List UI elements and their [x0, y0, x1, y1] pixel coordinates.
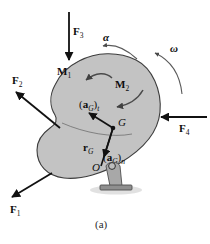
- point-O-label: O: [92, 161, 100, 173]
- figure-caption: (a): [95, 218, 108, 231]
- point-G-marker: [111, 126, 116, 131]
- force-F1-arrow: [12, 173, 52, 197]
- figure-root: F3 α ω M1 M2 F2 F1 F4: [0, 0, 210, 244]
- alpha-label: α: [103, 31, 110, 43]
- rigid-body-shape: [37, 54, 160, 179]
- force-F1-label: F1: [10, 203, 21, 218]
- force-F3-label: F3: [73, 25, 84, 40]
- force-F4-label: F4: [179, 122, 190, 137]
- point-G-label: G: [118, 116, 126, 128]
- omega-arc: [155, 53, 182, 94]
- force-F2-label: F2: [12, 74, 23, 89]
- omega-label: ω: [170, 42, 178, 54]
- pin-support-base: [100, 185, 132, 190]
- free-body-diagram-svg: F3 α ω M1 M2 F2 F1 F4: [0, 0, 210, 244]
- pin-support-pivot: [109, 163, 116, 170]
